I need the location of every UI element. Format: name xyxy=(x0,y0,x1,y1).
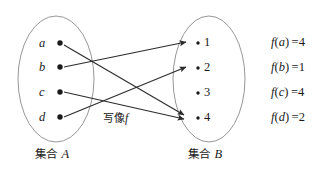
function-value-b-symbol: f xyxy=(271,60,274,74)
set-b-element-label-4: 4 xyxy=(204,111,210,124)
set-b-dot-1 xyxy=(196,41,199,44)
set-a-element-label-a: a xyxy=(39,37,45,50)
set-a-ellipse xyxy=(18,16,94,142)
function-value-d-arg: d xyxy=(279,110,285,124)
function-value-c-eq: = xyxy=(291,85,298,99)
function-value-a-symbol: f xyxy=(271,35,274,49)
set-b-caption-name: B xyxy=(215,147,223,161)
set-b-dot-2 xyxy=(196,66,199,69)
function-value-d-symbol: f xyxy=(271,110,274,124)
mapping-arrow-b-to-1 xyxy=(64,42,186,67)
function-value-a-arg: a xyxy=(279,35,285,49)
set-a-dot-d xyxy=(57,114,62,119)
set-b-element-label-1: 1 xyxy=(204,36,210,49)
function-value-a-eq: = xyxy=(292,35,299,49)
set-a-element-label-d: d xyxy=(39,111,45,124)
mapping-label: 写像f xyxy=(103,112,128,124)
mapping-arrow-d-to-2 xyxy=(64,67,186,117)
function-value-b-result: 1 xyxy=(299,60,305,74)
mapping-label-text: 写像 xyxy=(103,112,125,125)
set-a-dot-c xyxy=(57,89,62,94)
function-value-b-arg: b xyxy=(279,60,285,74)
function-value-c-symbol: f xyxy=(271,85,274,99)
set-a-caption-prefix: 集合 xyxy=(35,147,58,161)
set-a-element-label-b: b xyxy=(39,61,45,74)
set-b-dot-4 xyxy=(196,116,199,119)
set-mapping-diagram: a b c d 1 2 3 4 写像f 集合 A 集合 B f(a) =4 f(… xyxy=(0,0,325,174)
function-value-b-eq: = xyxy=(292,60,299,74)
set-b-dot-3 xyxy=(196,91,199,94)
function-value-d: f(d) =2 xyxy=(271,111,305,124)
function-value-b: f(b) =1 xyxy=(271,61,305,74)
mapping-arrow-a-to-4 xyxy=(64,45,184,115)
function-value-c: f(c) =4 xyxy=(271,86,304,99)
mapping-label-symbol: f xyxy=(125,111,128,125)
function-value-c-result: 4 xyxy=(298,85,304,99)
set-b-element-label-2: 2 xyxy=(204,61,210,74)
set-a-element-label-c: c xyxy=(39,86,45,99)
set-b-caption: 集合 B xyxy=(188,148,223,161)
function-value-c-arg: c xyxy=(279,85,285,99)
set-b-element-label-3: 3 xyxy=(204,86,210,99)
set-a-dot-b xyxy=(57,64,62,69)
function-value-a: f(a) =4 xyxy=(271,36,305,49)
function-value-a-result: 4 xyxy=(299,35,305,49)
set-b-caption-prefix: 集合 xyxy=(188,147,211,161)
set-a-caption-name: A xyxy=(62,147,70,161)
function-value-d-eq: = xyxy=(292,110,299,124)
function-value-d-result: 2 xyxy=(299,110,305,124)
set-a-caption: 集合 A xyxy=(35,148,70,161)
set-a-dot-a xyxy=(57,40,62,45)
